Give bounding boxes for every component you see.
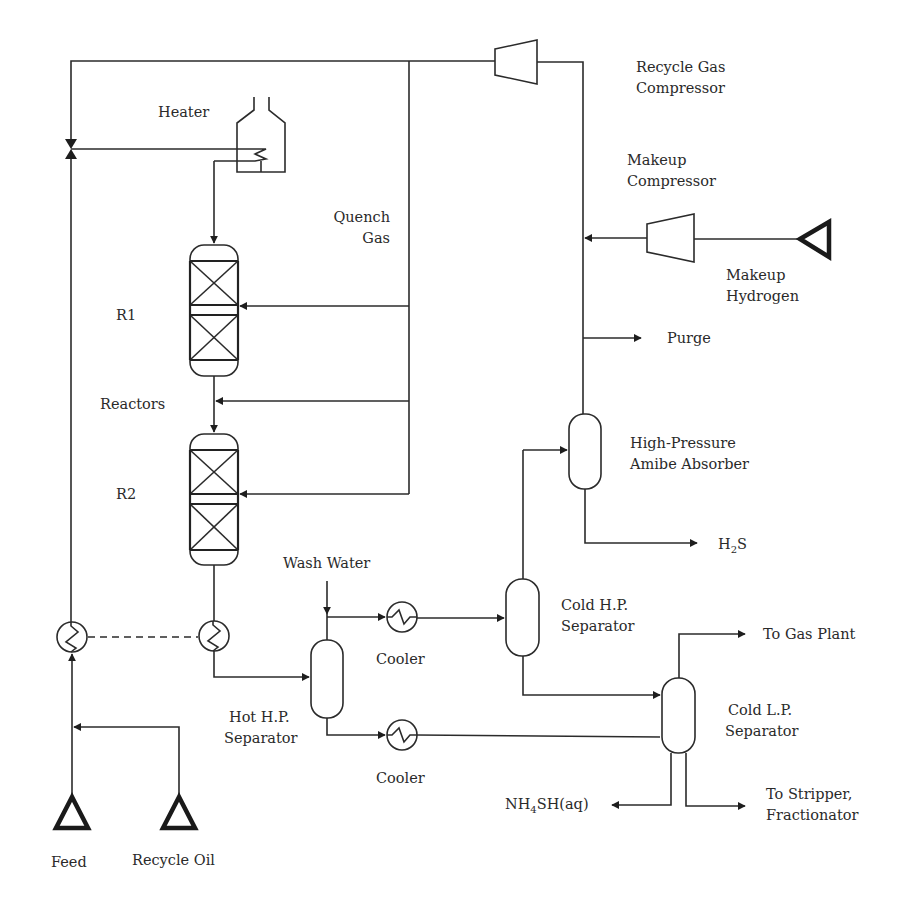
- makeup-compressor-icon: [647, 214, 694, 262]
- recycle-oil-line: [74, 727, 179, 795]
- label-line: Separator: [561, 616, 635, 637]
- recycle-gas-compressor-icon: [495, 40, 537, 84]
- label-line: Hot H.P.: [224, 707, 298, 728]
- label-nh4sh: NH4SH(aq): [505, 794, 589, 820]
- label-part: SH(aq): [537, 796, 589, 812]
- hot-hp-separator-icon: [311, 640, 343, 718]
- label-hp-amine-absorber: High-Pressure Amibe Absorber: [630, 433, 749, 475]
- cold-lp-separator-icon: [662, 678, 695, 753]
- label-wash-water: Wash Water: [283, 553, 370, 574]
- h2s-line: [585, 489, 697, 543]
- label-cooler-1: Cooler: [376, 649, 425, 670]
- label-feed: Feed: [51, 852, 87, 873]
- label-cooler-2: Cooler: [376, 768, 425, 789]
- label-purge: Purge: [667, 328, 711, 349]
- label-line: Separator: [224, 728, 298, 749]
- hp-amine-absorber-icon: [569, 414, 601, 489]
- makeup-hydrogen-source-icon: [800, 222, 829, 257]
- label-reactors: Reactors: [100, 394, 165, 415]
- nh4sh-line: [612, 753, 671, 805]
- label-line: Separator: [725, 721, 799, 742]
- feed-source-icon: [56, 797, 88, 828]
- label-part: NH: [505, 796, 530, 812]
- label-line: Quench: [332, 207, 390, 228]
- label-line: Hydrogen: [726, 286, 799, 307]
- label-line: Recycle Gas: [636, 57, 725, 78]
- cooler-2-to-lp-line: [417, 735, 660, 737]
- to-stripper-line: [686, 753, 745, 806]
- label-r1: R1: [116, 305, 136, 326]
- effluent-to-hot-sep-line: [214, 651, 309, 677]
- label-line: Makeup: [726, 265, 799, 286]
- label-part: H: [718, 536, 731, 552]
- recycle-gas-line: [71, 61, 583, 414]
- label-makeup-hydrogen: Makeup Hydrogen: [726, 265, 799, 307]
- label-quench-gas: Quench Gas: [332, 207, 390, 249]
- label-line: Compressor: [636, 78, 725, 99]
- cold-hp-separator-icon: [506, 579, 539, 656]
- label-cold-lp-separator: Cold L.P. Separator: [725, 700, 799, 742]
- label-makeup-compressor: Makeup Compressor: [627, 150, 716, 192]
- label-line: Amibe Absorber: [630, 454, 749, 475]
- reactor-r1-icon: [190, 245, 238, 376]
- label-line: High-Pressure: [630, 433, 749, 454]
- label-heater: Heater: [158, 102, 209, 123]
- label-line: Compressor: [627, 171, 716, 192]
- hot-sep-bottoms-line: [327, 718, 385, 735]
- effluent-exchanger-icon: [199, 621, 229, 651]
- feed-exchanger-icon: [57, 622, 87, 652]
- label-hot-hp-separator: Hot H.P. Separator: [224, 707, 298, 749]
- label-line: Fractionator: [766, 805, 858, 826]
- label-line: Gas: [332, 228, 390, 249]
- label-line: Cold H.P.: [561, 595, 635, 616]
- recycle-oil-source-icon: [163, 797, 195, 828]
- label-part: S: [737, 536, 747, 552]
- to-gas-plant-line: [679, 634, 745, 678]
- label-h2s: H2S: [718, 534, 747, 560]
- label-line: Makeup: [627, 150, 716, 171]
- label-r2: R2: [116, 484, 136, 505]
- label-to-gas-plant: To Gas Plant: [763, 624, 855, 645]
- reactor-r2-icon: [190, 434, 238, 565]
- cooler-2-icon: [387, 720, 417, 750]
- label-recycle-oil: Recycle Oil: [132, 850, 215, 871]
- label-to-stripper: To Stripper, Fractionator: [766, 784, 858, 826]
- process-flow-diagram: [0, 0, 897, 902]
- label-line: To Stripper,: [766, 784, 858, 805]
- label-cold-hp-separator: Cold H.P. Separator: [561, 595, 635, 637]
- label-line: Cold L.P.: [725, 700, 799, 721]
- cooler-1-icon: [387, 602, 417, 632]
- cold-hp-bottoms-line: [523, 656, 660, 695]
- label-recycle-gas-compressor: Recycle Gas Compressor: [636, 57, 725, 99]
